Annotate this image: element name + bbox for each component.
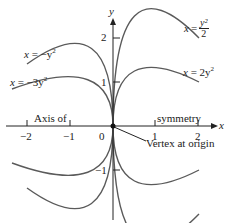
x-axis-label: x <box>219 120 224 131</box>
label-x-eq-2y2: x = 2y2 <box>183 66 214 78</box>
x-axis-arrow-icon <box>211 123 218 129</box>
vertex-dot <box>111 124 116 129</box>
y-tick-2: 2 <box>101 32 107 43</box>
vertex-leader-line <box>114 127 146 141</box>
annotation-symmetry: symmetry <box>157 113 201 124</box>
label-x-eq-neg-y2: x = −y2 <box>24 48 56 60</box>
label-x-eq-neg-3y2: x = −3y2 <box>10 76 47 88</box>
y-tick-neg1: −1 <box>95 165 107 176</box>
x-tick-0: 0 <box>99 131 105 142</box>
y-tick-1: 1 <box>101 77 107 88</box>
parabola-figure: y x −2 −1 0 1 2 2 1 −1 x = −y2 x = −3y2 … <box>0 0 227 223</box>
annotation-vertex-at-origin: Vertex at origin <box>146 138 214 149</box>
y-axis-label: y <box>109 6 114 17</box>
label-x-eq-y2-over-2: x=y²2 <box>184 18 209 39</box>
y-axis-arrow-icon <box>110 18 116 25</box>
x-tick-neg1: −1 <box>63 131 75 142</box>
x-tick-neg2: −2 <box>20 131 32 142</box>
annotation-axis-of: Axis of <box>34 113 67 124</box>
